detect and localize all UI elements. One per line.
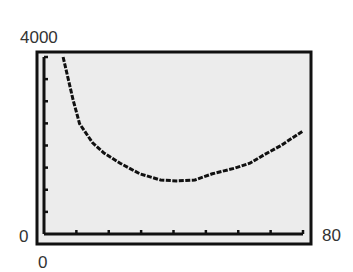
x-max-label: 80 <box>322 227 341 244</box>
y-max-label: 4000 <box>20 29 58 46</box>
y-min-label: 0 <box>19 228 28 245</box>
screen-frame <box>37 52 311 244</box>
x-min-label: 0 <box>38 254 47 271</box>
